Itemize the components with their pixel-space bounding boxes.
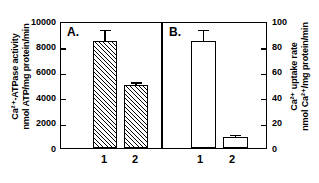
panel-a-errorcap-1 [100, 30, 111, 31]
panel-a-tickmark-2000 [61, 125, 66, 126]
left-tick-8000: 8000 [22, 42, 56, 53]
panel-b-bar-1 [191, 41, 216, 148]
panel-a-errorcap-2 [131, 82, 142, 83]
left-tick-6000: 6000 [22, 67, 56, 78]
panel-a-bar-1 [93, 41, 117, 148]
panel-b-tickmark-80 [261, 48, 266, 49]
panel-b-tickmark-20 [261, 125, 266, 126]
panel-a-tickmark-6000 [61, 74, 66, 75]
panel-b-label: B. [169, 25, 181, 39]
panel-b-errorcap-2 [230, 135, 241, 136]
panel-b-tickmark-40 [261, 99, 266, 100]
left-tick-4000: 4000 [22, 93, 56, 104]
panel-a-label: A. [67, 25, 79, 39]
panel-b-errorcap-1 [198, 30, 209, 31]
left-tick-10000: 10000 [22, 17, 56, 28]
right-y-axis-title-line1: Ca²⁺ uptake rate [289, 6, 300, 148]
panel-a-xtick-1: 1 [94, 153, 114, 166]
panel-b-xtick-1: 1 [190, 153, 210, 166]
figure-container: Ca²⁺-ATPase activity nmol ATP/mg protein… [0, 0, 319, 183]
panel-b-errorbar-1 [203, 31, 204, 41]
panel-a-tickmark-4000 [61, 99, 66, 100]
left-y-axis-title-line1: Ca²⁺-ATPase activity [10, 6, 21, 148]
left-tick-0: 0 [22, 144, 56, 155]
panel-b-tickmark-60 [261, 74, 266, 75]
panel-a-plot-area: A. [60, 22, 162, 149]
right-y-axis-title: Ca²⁺ uptake rate nmol Ca²⁺/mg protein/mi… [289, 6, 310, 148]
panel-b-xtick-2: 2 [222, 153, 242, 166]
left-y-axis-tick-labels: 10000 8000 6000 4000 2000 0 [22, 0, 56, 183]
panel-a-tickmark-8000 [61, 48, 66, 49]
panel-b-plot-area: B. [162, 22, 267, 149]
panel-a-errorbar-1 [104, 31, 105, 41]
panel-a-xtick-2: 2 [125, 153, 145, 166]
panel-a-bar-2 [124, 85, 148, 149]
right-y-axis-title-line2: nmol Ca²⁺/mg protein/min [299, 6, 310, 148]
panel-b-bar-2 [223, 137, 248, 148]
left-tick-2000: 2000 [22, 118, 56, 129]
